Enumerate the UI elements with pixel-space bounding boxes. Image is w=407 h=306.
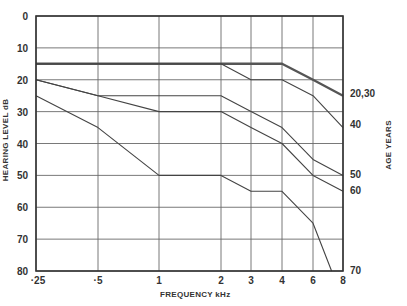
curve-age-70 [36,96,332,271]
y-tick-label: 0 [22,11,28,22]
x-tick-label: 4 [279,275,285,286]
y-tick-label: 50 [17,170,29,181]
series-label: 60 [350,185,362,196]
y-tick-label: 40 [17,139,29,150]
x-tick-label: ·5 [94,275,103,286]
y-tick-label: 70 [17,234,29,245]
x-tick-label: ·25 [31,275,46,286]
legend-title: AGE YEARS [384,120,393,170]
series-label: 70 [350,265,362,276]
x-axis-ticks: ·25·5123468 [31,275,346,286]
y-tick-label: 60 [17,202,29,213]
y-tick-label: 20 [17,75,29,86]
series-label: 50 [350,169,362,180]
x-axis-label: FREQUENCY kHz [160,290,230,299]
series-label: 20,30 [350,88,375,99]
data-curves [36,64,343,271]
y-tick-label: 10 [17,43,29,54]
curve-age-50 [36,80,343,176]
curve-age-60 [36,80,343,192]
y-tick-label: 80 [17,266,29,277]
x-tick-label: 2 [218,275,224,286]
y-axis-label: HEARING LEVEL dB [1,99,10,181]
x-tick-label: 1 [156,275,162,286]
x-tick-label: 3 [248,275,254,286]
y-axis-ticks: 01020304050607080 [17,11,29,277]
x-tick-label: 8 [340,275,346,286]
x-tick-label: 6 [310,275,316,286]
hearing-level-chart: 01020304050607080 ·25·5123468 20,3040506… [0,0,407,306]
series-labels: 20,3040506070 [350,88,375,276]
y-tick-label: 30 [17,107,29,118]
series-label: 40 [350,119,362,130]
